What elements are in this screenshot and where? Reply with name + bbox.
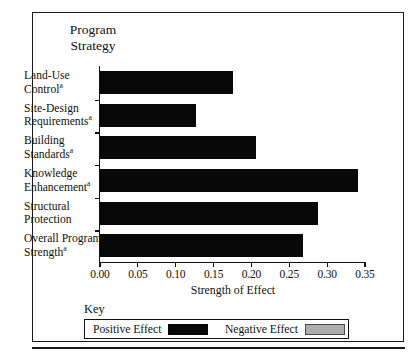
category-label-5: Overall ProgramStrengtha bbox=[24, 232, 108, 259]
category-label-line: Standardsa bbox=[24, 148, 98, 162]
bar-4 bbox=[100, 202, 318, 225]
x-tick-label-7: 0.35 bbox=[345, 268, 385, 280]
bar-1 bbox=[100, 104, 196, 127]
category-label-0: Land-UseControla bbox=[24, 69, 98, 96]
category-label-line: Building bbox=[24, 134, 98, 148]
x-tick-2 bbox=[175, 262, 176, 267]
category-tick-2 bbox=[95, 132, 100, 133]
bar-row bbox=[100, 234, 365, 257]
category-tick-1 bbox=[95, 100, 100, 101]
figure-chart-program-strategy: Program Strategy 0.000.050.100.150.200.2… bbox=[0, 0, 416, 359]
legend-label-1: Negative Effect bbox=[225, 323, 298, 336]
legend-box: Positive EffectNegative Effect bbox=[84, 319, 349, 339]
category-tick-3 bbox=[95, 165, 100, 166]
bar-row bbox=[100, 136, 365, 159]
bar-5 bbox=[100, 234, 303, 257]
bar-3 bbox=[100, 169, 358, 192]
footnote-marker: a bbox=[87, 179, 90, 188]
x-tick-1 bbox=[137, 262, 138, 267]
category-label-line: Protection bbox=[24, 213, 98, 227]
category-label-2: BuildingStandardsa bbox=[24, 134, 98, 161]
legend-entry-0: Positive Effect bbox=[93, 320, 208, 338]
corner-title-line-2: Strategy bbox=[38, 38, 148, 54]
bar-row bbox=[100, 169, 365, 192]
category-label-line: Controla bbox=[24, 83, 98, 97]
category-label-line: Strengtha bbox=[24, 246, 108, 260]
x-tick-label-0: 0.00 bbox=[80, 268, 120, 280]
category-label-line: Site-Design bbox=[24, 102, 98, 116]
x-tick-3 bbox=[213, 262, 214, 267]
x-tick-6 bbox=[327, 262, 328, 267]
footnote-marker: a bbox=[59, 81, 62, 90]
x-tick-label-2: 0.10 bbox=[156, 268, 196, 280]
bar-row bbox=[100, 71, 365, 94]
x-tick-0 bbox=[99, 262, 100, 267]
category-label-4: StructuralProtection bbox=[24, 200, 98, 227]
negative-swatch bbox=[305, 324, 345, 335]
corner-title-line-1: Program bbox=[38, 22, 148, 38]
category-label-1: Site-DesignRequirementsa bbox=[24, 102, 98, 129]
x-tick-label-4: 0.20 bbox=[231, 268, 271, 280]
footnote-marker: a bbox=[88, 113, 91, 122]
category-label-3: KnowledgeEnhancementa bbox=[24, 167, 98, 194]
figure-bottom-rule bbox=[32, 347, 405, 349]
x-tick-label-5: 0.25 bbox=[269, 268, 309, 280]
x-tick-4 bbox=[251, 262, 252, 267]
category-tick-4 bbox=[95, 198, 100, 199]
legend-entry-1: Negative Effect bbox=[225, 320, 345, 338]
bar-row bbox=[100, 104, 365, 127]
chart-corner-title: Program Strategy bbox=[38, 22, 148, 55]
plot-area bbox=[100, 66, 365, 262]
key-title: Key bbox=[84, 302, 105, 317]
x-tick-label-6: 0.30 bbox=[307, 268, 347, 280]
x-tick-7 bbox=[364, 262, 365, 267]
footnote-marker: a bbox=[63, 244, 66, 253]
bar-2 bbox=[100, 136, 256, 159]
bar-0 bbox=[100, 71, 233, 94]
x-tick-5 bbox=[289, 262, 290, 267]
category-tick-5 bbox=[95, 230, 100, 231]
positive-swatch bbox=[168, 324, 208, 335]
category-label-line: Structural bbox=[24, 200, 98, 214]
bar-row bbox=[100, 202, 365, 225]
legend-label-0: Positive Effect bbox=[93, 323, 161, 336]
x-axis-title: Strength of Effect bbox=[100, 283, 366, 298]
x-tick-label-3: 0.15 bbox=[194, 268, 234, 280]
x-tick-label-1: 0.05 bbox=[118, 268, 158, 280]
footnote-marker: a bbox=[70, 146, 73, 155]
category-label-line: Enhancementa bbox=[24, 181, 98, 195]
category-label-line: Requirementsa bbox=[24, 115, 98, 129]
